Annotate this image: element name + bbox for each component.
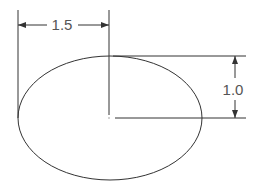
ellipse-dimension-drawing: 1.5 1.0 xyxy=(0,0,258,185)
center-point xyxy=(108,117,110,119)
horizontal-dimension-label: 1.5 xyxy=(52,16,73,33)
vertical-dimension-label: 1.0 xyxy=(223,81,244,98)
